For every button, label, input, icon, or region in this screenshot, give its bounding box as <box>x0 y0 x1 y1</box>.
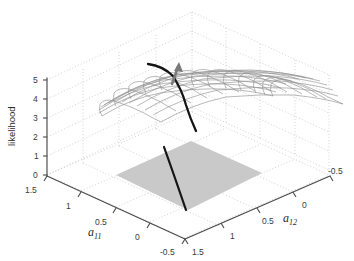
x-tick-label-1p5: 1.5 <box>25 186 37 195</box>
x-tick-label-0: 0 <box>135 233 140 242</box>
y-tick-label-1p5: 1.5 <box>192 248 204 257</box>
y-axis-title-sub: 12 <box>289 218 297 227</box>
y-tick-label-0p5: 0.5 <box>262 217 274 226</box>
z-tick-label-0: 0 <box>33 171 38 180</box>
y-axis-title: a12 <box>283 212 297 227</box>
y-tick-label-m0p5: -0.5 <box>328 167 343 176</box>
z-tick-label-4: 4 <box>33 95 38 104</box>
z-axis-ticks <box>43 80 47 175</box>
surface-plot-canvas <box>0 0 354 261</box>
likelihood-surface-mesh <box>99 70 343 123</box>
x-axis-title: a11 <box>88 226 101 241</box>
z-axis-title: likelihood <box>6 86 20 166</box>
x-tick-label-1: 1 <box>66 202 71 211</box>
x-axis-title-sub: 11 <box>94 232 101 241</box>
z-tick-label-2: 2 <box>33 133 38 142</box>
x-tick-label-m0p5: -0.5 <box>160 248 175 257</box>
base-plane <box>116 141 262 210</box>
z-tick-label-3: 3 <box>33 114 38 123</box>
figure-container: 5 4 3 2 1 0 likelihood 1.5 1 0.5 0 -0.5 … <box>0 0 354 261</box>
y-tick-label-0: 0 <box>302 201 307 210</box>
y-tick-label-1: 1 <box>230 232 235 241</box>
z-tick-label-1: 1 <box>34 152 39 161</box>
z-tick-label-5: 5 <box>33 76 38 85</box>
